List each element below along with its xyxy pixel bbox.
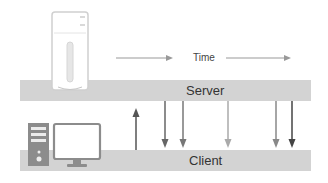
message-arrows	[0, 0, 328, 183]
up-arrow-icon	[133, 108, 140, 150]
down-arrow-icon	[162, 101, 169, 148]
down-arrow-icon	[225, 101, 232, 148]
down-arrow-icon	[289, 101, 296, 148]
down-arrow-icon	[180, 101, 187, 148]
down-arrow-icon	[273, 101, 280, 148]
